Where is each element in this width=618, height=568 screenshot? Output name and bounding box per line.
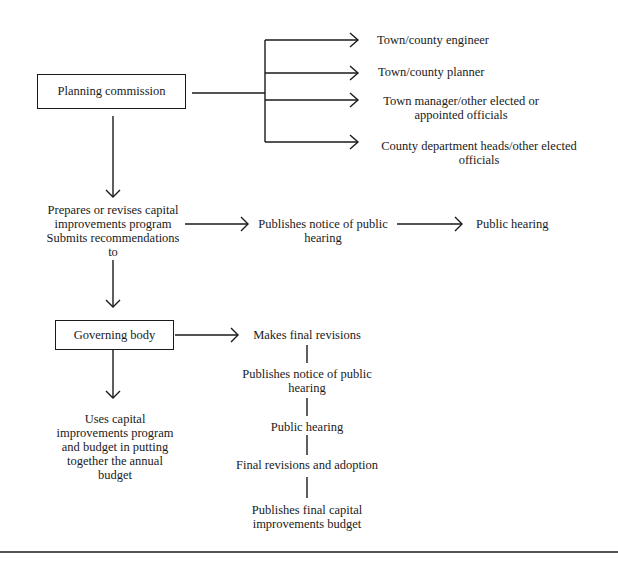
county-heads-label: County department heads/other elected of… (374, 139, 584, 167)
planner-label: Town/county planner (378, 65, 484, 79)
cip-process-flowchart: Planning commission Town/county engineer… (0, 0, 618, 568)
planning-commission-box: Planning commission (37, 74, 186, 109)
publishes-notice-label-1: Publishes notice of public hearing (253, 217, 393, 245)
publishes-final-budget-label: Publishes final capital improvements bud… (237, 503, 377, 531)
engineer-label: Town/county engineer (377, 33, 489, 47)
uses-cip-label: Uses capital improvements program and bu… (53, 412, 177, 482)
governing-body-box: Governing body (55, 320, 174, 350)
final-revisions-adoption-label: Final revisions and adoption (227, 458, 387, 472)
prepares-cip-label: Prepares or revises capital improvements… (40, 203, 186, 259)
governing-body-label: Governing body (74, 328, 156, 343)
town-manager-label: Town manager/other elected or appointed … (376, 94, 546, 122)
planning-commission-label: Planning commission (58, 84, 166, 99)
public-hearing-label-2: Public hearing (237, 420, 377, 434)
public-hearing-label-1: Public hearing (476, 217, 549, 231)
publishes-notice-label-2: Publishes notice of public hearing (237, 367, 377, 395)
makes-final-revisions-label: Makes final revisions (237, 328, 377, 342)
